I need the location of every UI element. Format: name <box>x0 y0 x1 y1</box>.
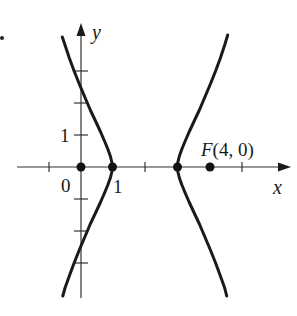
x-axis <box>17 162 291 172</box>
focus-label: F(4, 0) <box>200 139 254 161</box>
origin-point <box>77 163 86 172</box>
focus-point <box>206 163 215 172</box>
focus-coords: (4, 0) <box>213 139 254 161</box>
origin-label: 0 <box>61 175 71 196</box>
y-one-label: 1 <box>60 125 70 146</box>
y-axis-label: y <box>90 21 101 44</box>
stray-mark <box>0 36 4 40</box>
hyperbola-right-branch <box>177 35 227 296</box>
y-axis-arrow-icon <box>77 23 86 36</box>
hyperbola-diagram: y x 0 1 1 F(4, 0) <box>0 0 297 316</box>
x-one-label: 1 <box>113 176 123 197</box>
right-vertex-point <box>173 163 182 172</box>
x-axis-arrow-icon <box>278 163 291 172</box>
x-axis-label: x <box>272 176 282 198</box>
left-vertex-point <box>108 163 117 172</box>
